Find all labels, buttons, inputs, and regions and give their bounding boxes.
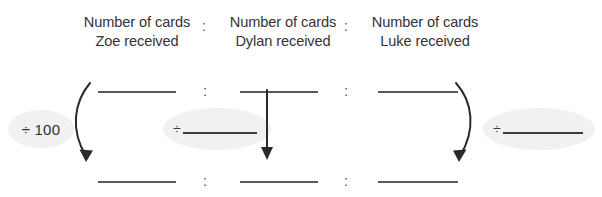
header-separator-1: : bbox=[202, 17, 206, 36]
down-arrow-icon-dylan bbox=[258, 88, 276, 164]
ratio-separator-bottom-2: : bbox=[344, 173, 348, 188]
ratio-blank-top-zoe[interactable] bbox=[98, 91, 176, 93]
ratio-blank-bottom-zoe[interactable] bbox=[98, 181, 176, 183]
header-zoe-line1: Number of cards bbox=[62, 13, 212, 32]
header-dylan-line2: Dylan received bbox=[208, 32, 358, 51]
operation-blank-right[interactable] bbox=[503, 132, 583, 134]
ratio-blank-bottom-luke[interactable] bbox=[378, 181, 458, 183]
divide-icon: ÷ bbox=[493, 121, 501, 137]
header-luke-line2: Luke received bbox=[350, 32, 500, 51]
header-label-zoe: Number of cards Zoe received bbox=[62, 13, 212, 51]
operation-bubble-divide-blank-middle[interactable]: ÷ bbox=[163, 108, 271, 150]
header-zoe-line2: Zoe received bbox=[62, 32, 212, 51]
ratio-blank-top-dylan[interactable] bbox=[240, 91, 318, 93]
operation-bubble-divide-100[interactable]: ÷ 100 bbox=[8, 110, 74, 148]
curved-down-arrow-icon-luke bbox=[440, 80, 480, 170]
worksheet-canvas: Number of cards Zoe received : Number of… bbox=[0, 0, 602, 197]
ratio-separator-top-2: : bbox=[344, 83, 348, 98]
operation-blank-middle[interactable] bbox=[183, 132, 257, 134]
operation-bubble-divide-blank-right[interactable]: ÷ bbox=[483, 108, 595, 150]
curved-down-arrow-icon-zoe bbox=[68, 80, 108, 170]
header-luke-line1: Number of cards bbox=[350, 13, 500, 32]
header-label-luke: Number of cards Luke received bbox=[350, 13, 500, 51]
header-separator-2: : bbox=[344, 17, 348, 36]
divide-icon: ÷ bbox=[173, 121, 181, 137]
ratio-separator-bottom-1: : bbox=[203, 173, 207, 188]
header-label-dylan: Number of cards Dylan received bbox=[208, 13, 358, 51]
ratio-separator-top-1: : bbox=[203, 83, 207, 98]
ratio-blank-bottom-dylan[interactable] bbox=[240, 181, 318, 183]
header-dylan-line1: Number of cards bbox=[208, 13, 358, 32]
operation-label-divide-100: ÷ 100 bbox=[22, 121, 60, 138]
